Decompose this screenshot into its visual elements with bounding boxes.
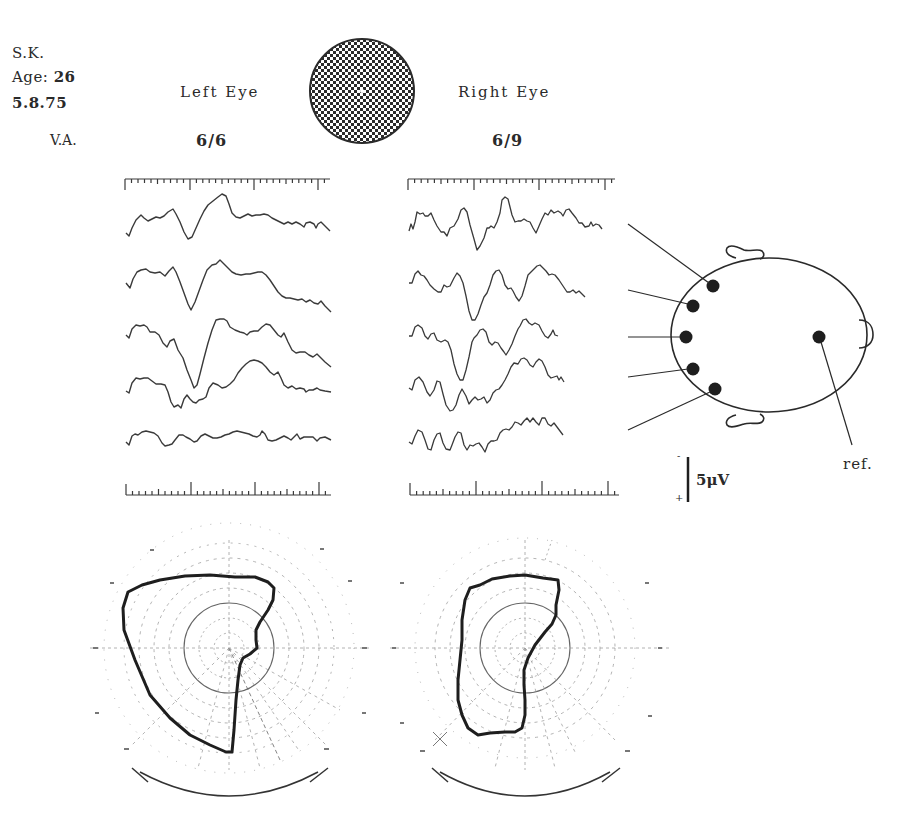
reference-label: ref. xyxy=(843,455,873,473)
left-visual-field-chart xyxy=(90,523,370,796)
figure-canvas xyxy=(0,0,911,838)
calibration-plus: + xyxy=(675,492,683,503)
electrode-5 xyxy=(709,383,722,396)
right-trace-4 xyxy=(409,358,564,411)
ear-top-icon xyxy=(726,246,763,259)
left-bottom-time-scale xyxy=(126,482,331,495)
electrode-4 xyxy=(687,363,700,376)
left-isopter xyxy=(123,575,274,752)
reference-electrode xyxy=(813,331,826,344)
right-top-time-scale xyxy=(408,179,615,190)
checkerboard-stimulus-icon xyxy=(310,39,414,143)
ear-bottom-icon xyxy=(726,414,763,427)
right-eye-vep-traces xyxy=(409,197,602,452)
right-trace-3 xyxy=(409,319,558,380)
electrode-1 xyxy=(707,280,720,293)
left-trace-1 xyxy=(126,194,330,239)
left-trace-5 xyxy=(126,431,331,446)
left-trace-2 xyxy=(126,260,331,312)
calibration-minus: - xyxy=(677,450,680,461)
right-isopter xyxy=(458,575,559,735)
calibration-amplitude-label: 5μV xyxy=(696,471,729,489)
left-trace-4 xyxy=(126,360,331,408)
right-trace-5 xyxy=(409,418,563,452)
left-trace-3 xyxy=(126,319,331,388)
electrode-3 xyxy=(680,331,693,344)
perimeter-tick-marks xyxy=(93,548,662,752)
left-top-time-scale xyxy=(125,179,330,190)
electrode-2 xyxy=(687,300,700,313)
electrodes xyxy=(680,280,826,396)
right-trace-2 xyxy=(409,265,585,320)
electrode-head-diagram xyxy=(671,246,873,427)
right-trace-1 xyxy=(409,197,602,250)
right-bottom-time-scale xyxy=(410,481,619,495)
left-eye-vep-traces xyxy=(126,194,331,446)
